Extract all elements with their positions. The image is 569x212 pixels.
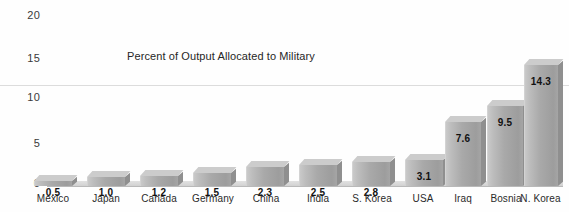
bar-front-face — [193, 173, 231, 186]
x-axis-label-germany: Germany — [184, 193, 242, 204]
bar-front-face — [445, 122, 481, 186]
bar-canada: 1.2 — [140, 176, 178, 186]
bar-front-face — [140, 176, 178, 186]
bars-layer: 0.5 1.0 1.2 1.5 2.3 — [0, 0, 569, 212]
bar-value-label: 3.1 — [405, 171, 443, 182]
bar-japan: 1.0 — [87, 177, 125, 186]
bar-china: 2.3 — [246, 167, 284, 186]
bar-value-label: 7.6 — [445, 133, 481, 144]
bar-germany: 1.5 — [193, 173, 231, 186]
bar-side-face — [390, 158, 395, 186]
x-axis-label-canada: Canada — [133, 193, 185, 204]
bar-value-label: 14.3 — [524, 76, 558, 87]
bar-front-face — [299, 165, 337, 186]
bar-side-face — [481, 118, 486, 186]
bar-bosnia: 9.5 — [487, 106, 523, 186]
x-axis-label-mexico: Mexico — [27, 193, 79, 204]
x-axis-label-india: India — [294, 193, 342, 204]
bar-usa: 3.1 — [405, 160, 443, 186]
bar-iraq: 7.6 — [445, 122, 481, 186]
bar-side-face — [284, 163, 289, 186]
bar-chart: 20 15 10 5 0 Percent of Output Allocated… — [0, 0, 569, 212]
bar-s-korea: 2.8 — [352, 162, 390, 186]
x-axis-label-china: China — [242, 193, 290, 204]
bar-india: 2.5 — [299, 165, 337, 186]
bar-side-face — [178, 172, 183, 186]
bar-front-face — [34, 181, 72, 186]
bar-n-korea: 14.3 — [524, 65, 558, 186]
x-axis-label-iraq: Iraq — [440, 193, 486, 204]
x-axis-label-n-korea: N. Korea — [512, 193, 569, 204]
bar-side-face — [337, 161, 342, 186]
bar-side-face — [125, 173, 130, 186]
bar-front-face — [246, 167, 284, 186]
bar-front-face — [352, 162, 390, 186]
bar-value-label: 9.5 — [487, 117, 523, 128]
bar-side-face — [231, 169, 236, 186]
x-axis-label-s-korea: S. Korea — [343, 193, 401, 204]
bar-side-face — [558, 61, 563, 186]
x-axis-label-japan: Japan — [82, 193, 130, 204]
bar-mexico: 0.5 — [34, 181, 72, 186]
bar-front-face — [87, 177, 125, 186]
